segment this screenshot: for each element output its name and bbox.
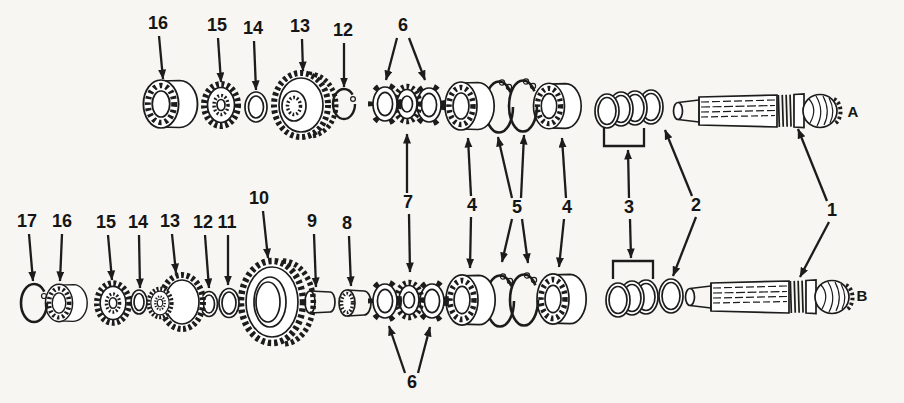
callout-14-bottom: 14 [128, 212, 148, 288]
callout-3: 3 [624, 150, 634, 258]
svg-text:9: 9 [307, 211, 317, 231]
svg-text:7: 7 [403, 192, 413, 212]
top-assembly [143, 73, 840, 146]
svg-text:16: 16 [52, 211, 72, 231]
svg-text:3: 3 [624, 197, 634, 217]
svg-text:12: 12 [333, 20, 353, 40]
svg-text:13: 13 [290, 16, 310, 36]
svg-text:12: 12 [193, 212, 213, 232]
callout-9: 9 [307, 211, 317, 287]
bearing-4b-bottom [537, 274, 586, 324]
svg-text:13: 13 [160, 211, 180, 231]
bearing-4a-bottom [446, 275, 495, 325]
callout-13-top: 13 [290, 16, 310, 71]
callout-6-bottom: 6 [389, 326, 430, 392]
svg-text:4: 4 [467, 195, 477, 215]
svg-text:11: 11 [217, 212, 236, 232]
callout-12-top: 12 [333, 20, 353, 87]
gear-15-top [204, 84, 238, 126]
washer-14-top [245, 92, 267, 122]
callout-4b: 4 [559, 138, 572, 267]
diagram-canvas: 16 15 14 13 12 6 7 [0, 0, 904, 403]
callout-5: 5 [498, 135, 528, 263]
gear-13-bottom [148, 275, 203, 329]
svg-text:5: 5 [512, 197, 522, 217]
callout-6-top: 6 [386, 15, 425, 80]
callout-10: 10 [249, 188, 269, 258]
svg-text:2: 2 [691, 195, 701, 215]
retainer-nut-6a-top [371, 85, 400, 124]
bottom-assembly [21, 261, 853, 344]
callout-17: 17 [17, 211, 37, 281]
bearing-4b-top [533, 83, 581, 129]
svg-text:1: 1 [827, 200, 837, 220]
svg-text:15: 15 [207, 15, 227, 35]
callout-7: 7 [403, 134, 413, 272]
shaft-b-label: B [857, 287, 868, 304]
callout-15-top: 15 [207, 15, 227, 82]
callout-12-bottom: 12 [193, 212, 213, 288]
callout-8: 8 [342, 213, 352, 286]
callout-16-bottom: 16 [52, 211, 72, 281]
snap-ring-17 [21, 284, 47, 322]
svg-text:10: 10 [249, 188, 269, 208]
ring-set-3-top [595, 91, 647, 146]
callout-11: 11 [217, 212, 236, 285]
callout-4a: 4 [467, 138, 477, 268]
gear-15-bottom [97, 283, 129, 323]
callout-2: 2 [665, 130, 701, 276]
callout-15-bottom: 15 [96, 212, 116, 280]
bearing-4a-top [445, 82, 494, 130]
gear-13-top [274, 73, 336, 137]
svg-text:14: 14 [128, 212, 148, 232]
svg-text:6: 6 [407, 372, 417, 392]
callout-1: 1 [798, 129, 837, 277]
bearing-16-bottom [45, 284, 87, 321]
gear-10 [241, 261, 313, 344]
exploded-diagram: 16 15 14 13 12 6 7 [0, 0, 904, 403]
ring-set-3-bottom [606, 261, 658, 317]
svg-text:14: 14 [243, 18, 263, 38]
svg-text:16: 16 [148, 13, 168, 33]
svg-text:8: 8 [342, 213, 352, 233]
svg-text:4: 4 [562, 197, 572, 217]
shaft-a-label: A [848, 103, 859, 120]
bracket-3-top [604, 128, 644, 146]
callout-14-top: 14 [243, 18, 263, 90]
splined-collar-8 [339, 290, 371, 316]
input-shaft-a [674, 94, 841, 128]
svg-text:15: 15 [96, 212, 116, 232]
bracket-3-bottom [613, 261, 653, 279]
output-shaft-b [686, 280, 853, 314]
retainer-nut-6a-bottom [371, 282, 400, 321]
spacer-9 [305, 291, 335, 313]
callout-16-top: 16 [148, 13, 168, 79]
ring-2-bottom [659, 279, 683, 313]
snap-ring-5b-bottom [510, 273, 538, 326]
washer-14-bottom [131, 290, 147, 314]
callout-13-bottom: 13 [160, 211, 180, 273]
bearing-16-top [143, 80, 197, 128]
svg-text:6: 6 [398, 15, 408, 35]
ring-11 [219, 289, 239, 318]
svg-text:17: 17 [17, 211, 37, 231]
callouts: 16 15 14 13 12 6 7 [17, 13, 868, 392]
